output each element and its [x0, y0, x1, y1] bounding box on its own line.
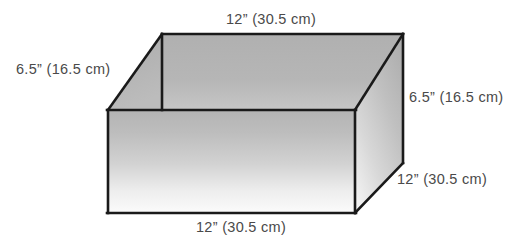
dimension-label-top: 12” (30.5 cm) — [226, 12, 316, 27]
dimension-label-left: 6.5” (16.5 cm) — [16, 62, 110, 77]
dimension-label-right-lower: 12” (30.5 cm) — [397, 172, 487, 187]
box-illustration — [0, 0, 531, 245]
front-face — [108, 110, 355, 213]
box-dimensions-diagram: 12” (30.5 cm) 6.5” (16.5 cm) 6.5” (16.5 … — [0, 0, 531, 245]
dimension-label-right-upper: 6.5” (16.5 cm) — [409, 90, 503, 105]
dimension-label-bottom: 12” (30.5 cm) — [196, 220, 286, 235]
